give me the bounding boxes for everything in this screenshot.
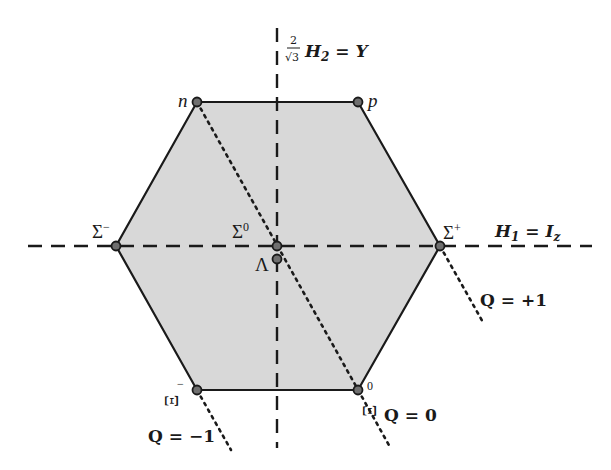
h2-label: H2 = Y bbox=[304, 41, 370, 64]
particle-dot-xi-minus bbox=[193, 386, 202, 395]
label-q-plus-1: Q = +1 bbox=[480, 290, 547, 310]
label-xi-zero-sup: 0 bbox=[367, 379, 373, 393]
label-lambda: Λ bbox=[255, 254, 269, 275]
particle-dot-sigma-minus bbox=[112, 242, 121, 251]
charge-line-q-plus-1 bbox=[440, 246, 484, 324]
particle-dot-xi-zero bbox=[354, 386, 363, 395]
label-q-zero: Q = 0 bbox=[384, 405, 437, 425]
frac-denominator: √3 bbox=[285, 51, 299, 64]
label-n: n bbox=[178, 90, 188, 111]
label-q-minus-1: Q = −1 bbox=[148, 426, 215, 446]
vertical-axis-label: 2 √3 H2 = Y bbox=[285, 34, 370, 64]
particle-dot-lambda bbox=[273, 255, 282, 264]
label-p: p bbox=[366, 90, 378, 111]
particle-dot-p bbox=[354, 98, 363, 107]
label-sigma-plus: Σ+ bbox=[443, 221, 461, 243]
frac-numerator: 2 bbox=[290, 34, 297, 47]
label-sigma-minus: Σ− bbox=[92, 220, 110, 242]
horizontal-axis-label: H1 = Iz bbox=[494, 221, 561, 244]
label-xi-zero: Ξ bbox=[359, 405, 380, 417]
label-xi-minus: Ξ bbox=[161, 395, 182, 407]
label-xi-minus-sup: − bbox=[177, 377, 184, 391]
h1-label: H1 = Iz bbox=[494, 221, 561, 244]
weight-diagram: n p Σ− Σ0 Λ Σ+ Ξ − Ξ 0 2 √3 H2 = Y H1 = … bbox=[0, 0, 611, 470]
particle-dot-n bbox=[193, 98, 202, 107]
particle-dot-sigma-zero bbox=[273, 242, 282, 251]
